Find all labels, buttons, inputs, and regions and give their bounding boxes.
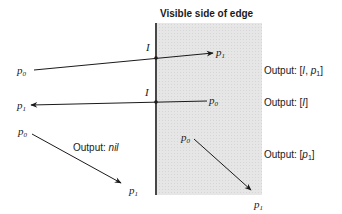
p0-label: p0: [17, 125, 28, 139]
p1-label: p1: [128, 184, 138, 198]
output-label: Output: nil: [73, 142, 119, 153]
case-both-outside: p0 p1 Output: nil: [17, 125, 138, 198]
edge-clipping-diagram: Visible side of edge p0 p1 I Output: [I,…: [0, 0, 342, 214]
intersection-label: I: [144, 86, 150, 98]
p0-label: p0: [16, 64, 27, 78]
intersection-point: [154, 56, 158, 60]
p1-label: p1: [253, 198, 263, 212]
output-label: Output: [p1]: [264, 149, 315, 161]
intersection-label: I: [145, 41, 151, 53]
visible-side-region: [157, 23, 262, 195]
output-label: Output: [I, p1]: [264, 65, 323, 77]
output-label: Output: [I]: [264, 97, 308, 108]
p1-label: p1: [16, 99, 26, 113]
intersection-point: [154, 100, 158, 104]
diagram-title: Visible side of edge: [160, 8, 254, 19]
